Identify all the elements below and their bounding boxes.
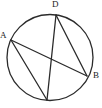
chord-d-b bbox=[56, 15, 87, 76]
geometry-figure: A D B bbox=[0, 0, 102, 108]
circle-outline bbox=[7, 15, 93, 101]
vertex-label-b: B bbox=[93, 71, 99, 80]
vertex-label-a: A bbox=[0, 31, 7, 40]
circle-diagram-canvas bbox=[0, 0, 102, 108]
vertex-label-d: D bbox=[52, 0, 59, 9]
